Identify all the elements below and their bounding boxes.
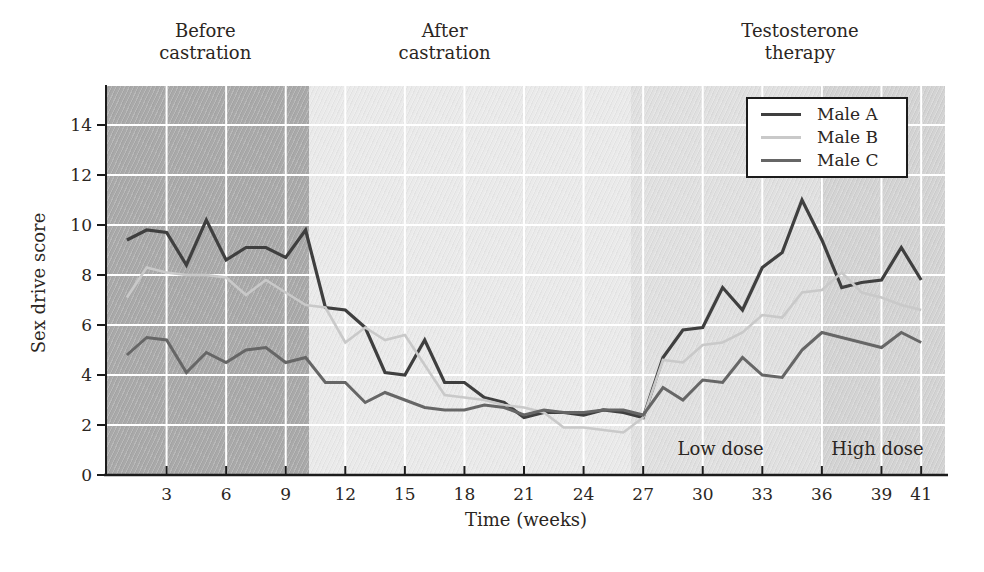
y-tick-label-4: 4 (81, 365, 92, 385)
male-b-line-swatch (761, 136, 801, 139)
legend-label: Male B (817, 128, 878, 147)
y-tick-label-14: 14 (70, 115, 92, 135)
y-tick-label-10: 10 (70, 215, 92, 235)
y-tick-label-6: 6 (81, 315, 92, 335)
x-tick-label-3: 3 (161, 484, 172, 504)
high-dose-label: High dose (831, 437, 924, 458)
x-tick-label-15: 15 (394, 484, 416, 504)
y-tick-label-2: 2 (81, 415, 92, 435)
y-tick-label-0: 0 (81, 465, 92, 485)
y-axis-title: Sex drive score (28, 213, 49, 354)
x-axis-title: Time (weeks) (465, 509, 587, 530)
x-tick-label-36: 36 (811, 484, 833, 504)
phase-label-before-castration: Before castration (159, 20, 251, 64)
x-tick-label-33: 33 (751, 484, 773, 504)
x-tick-label-39: 39 (871, 484, 893, 504)
legend-label: Male C (817, 151, 878, 170)
x-tick-label-41: 41 (910, 484, 932, 504)
phase-label-after-castration: After castration (399, 20, 491, 64)
x-tick-label-18: 18 (454, 484, 476, 504)
legend-item-male-b: Male B (748, 128, 906, 147)
x-tick-label-12: 12 (334, 484, 356, 504)
chart-canvas (0, 0, 984, 572)
male-c-line-swatch (761, 159, 801, 162)
legend-item-male-a: Male A (748, 105, 906, 124)
phase-label-testosterone-therapy: Testosterone therapy (741, 20, 858, 64)
legend: Male A Male B Male C (746, 97, 908, 178)
legend-item-male-c: Male C (748, 151, 906, 170)
x-tick-label-9: 9 (280, 484, 291, 504)
x-tick-label-24: 24 (573, 484, 595, 504)
y-tick-label-8: 8 (81, 265, 92, 285)
x-tick-label-30: 30 (692, 484, 714, 504)
x-tick-label-27: 27 (632, 484, 654, 504)
x-tick-label-21: 21 (513, 484, 535, 504)
x-tick-label-6: 6 (221, 484, 232, 504)
y-tick-label-12: 12 (70, 165, 92, 185)
sex-drive-chart-figure: Before castration After castration Testo… (0, 0, 984, 572)
legend-label: Male A (817, 105, 878, 124)
male-a-line-swatch (761, 113, 801, 116)
low-dose-label: Low dose (678, 437, 764, 458)
